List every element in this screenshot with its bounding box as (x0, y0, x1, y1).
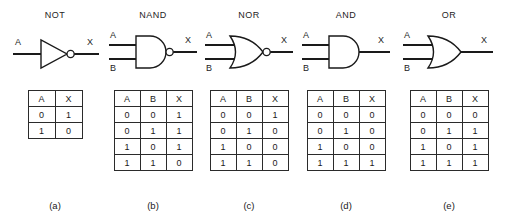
table-cell: 0 (333, 107, 359, 123)
table-header-row: A B X (210, 91, 288, 107)
table-cell: 1 (262, 107, 288, 123)
gate-title-or: OR (442, 8, 457, 22)
gate-group-nor: NOR A B X A B X (199, 0, 299, 219)
table-cell: 0 (210, 123, 236, 139)
table-header-cell: A (307, 91, 333, 107)
gate-symbol-nand: A B X (105, 26, 201, 78)
table-cell: 0 (236, 107, 262, 123)
table-cell: 0 (262, 123, 288, 139)
table-cell: 0 (55, 123, 82, 139)
gate-symbol-nor: A B X (201, 26, 297, 78)
caption-a: (a) (0, 200, 110, 211)
table-cell: 1 (462, 139, 488, 155)
table-header-cell: A (114, 91, 140, 107)
table-cell: 1 (333, 155, 359, 171)
table-cell: 0 (262, 155, 288, 171)
input-label-b: B (404, 63, 410, 73)
table-cell: 1 (462, 123, 488, 139)
table-header-cell: B (140, 91, 166, 107)
table-header-cell: B (236, 91, 262, 107)
table-cell: 0 (28, 107, 55, 123)
table-cell: 0 (307, 107, 333, 123)
gate-group-or: OR A B X A B X 0 0 (393, 0, 505, 219)
gate-symbol-not: A X (7, 26, 103, 78)
truth-table-not: A X 0 1 1 0 (28, 90, 83, 139)
table-row: 0 0 1 (210, 107, 288, 123)
gate-group-nand: NAND A B X A B X (103, 0, 203, 219)
table-header-cell: B (436, 91, 462, 107)
table-row: 1 0 (28, 123, 82, 139)
table-cell: 0 (410, 123, 436, 139)
table-cell: 1 (436, 155, 462, 171)
table-cell: 0 (307, 123, 333, 139)
table-row: 1 1 1 (410, 155, 488, 171)
caption-c: (c) (199, 200, 299, 211)
input-label-a: A (404, 30, 410, 40)
truth-table-and: A B X 0 0 0 0 1 0 1 0 0 1 1 1 (307, 90, 386, 171)
table-cell: 1 (166, 123, 192, 139)
table-cell: 1 (28, 123, 55, 139)
table-cell: 1 (166, 139, 192, 155)
table-header-cell: X (55, 91, 82, 107)
input-label-b: B (110, 63, 116, 73)
table-cell: 1 (166, 107, 192, 123)
input-label-b: B (206, 63, 212, 73)
table-row: 1 0 0 (307, 139, 385, 155)
table-cell: 1 (307, 155, 333, 171)
table-row: 1 1 1 (307, 155, 385, 171)
truth-table-nor: A B X 0 0 1 0 1 0 1 0 0 1 1 0 (210, 90, 289, 171)
output-label-x: X (185, 35, 191, 45)
table-cell: 0 (236, 139, 262, 155)
table-cell: 0 (114, 123, 140, 139)
table-row: 0 1 1 (114, 123, 192, 139)
table-cell: 1 (140, 123, 166, 139)
table-row: 1 0 1 (410, 139, 488, 155)
table-cell: 1 (462, 155, 488, 171)
input-label-b: B (303, 63, 309, 73)
caption-e: (e) (393, 200, 505, 211)
table-cell: 1 (210, 139, 236, 155)
table-header-row: A B X (114, 91, 192, 107)
gate-title-nor: NOR (238, 8, 260, 22)
table-header-cell: A (28, 91, 55, 107)
table-cell: 1 (210, 155, 236, 171)
table-cell: 0 (436, 139, 462, 155)
table-cell: 1 (436, 123, 462, 139)
table-header-cell: X (262, 91, 288, 107)
output-label-x: X (481, 35, 487, 45)
table-row: 1 1 0 (114, 155, 192, 171)
truth-table-nand: A B X 0 0 1 0 1 1 1 0 1 1 1 0 (114, 90, 193, 171)
logic-gates-figure: NOT A X A X 0 1 (0, 0, 505, 219)
table-header-cell: A (410, 91, 436, 107)
table-cell: 1 (114, 139, 140, 155)
table-header-row: A B X (410, 91, 488, 107)
gate-title-and: AND (336, 8, 357, 22)
table-cell: 0 (410, 107, 436, 123)
table-header-cell: B (333, 91, 359, 107)
table-cell: 0 (166, 155, 192, 171)
table-cell: 0 (359, 107, 385, 123)
table-cell: 1 (333, 123, 359, 139)
table-cell: 1 (410, 155, 436, 171)
table-cell: 0 (436, 107, 462, 123)
gate-title-nand: NAND (139, 8, 167, 22)
table-cell: 0 (140, 107, 166, 123)
output-label-x: X (87, 37, 93, 47)
table-cell: 1 (359, 155, 385, 171)
table-cell: 1 (236, 155, 262, 171)
table-header-row: A X (28, 91, 82, 107)
table-header-row: A B X (307, 91, 385, 107)
caption-d: (d) (296, 200, 396, 211)
table-header-cell: A (210, 91, 236, 107)
table-cell: 0 (114, 107, 140, 123)
table-cell: 1 (140, 155, 166, 171)
table-cell: 0 (333, 139, 359, 155)
table-row: 0 1 0 (210, 123, 288, 139)
table-cell: 1 (410, 139, 436, 155)
table-row: 0 1 0 (307, 123, 385, 139)
input-label-a: A (206, 30, 212, 40)
truth-table-or: A B X 0 0 0 0 1 1 1 0 1 1 1 1 (410, 90, 489, 171)
caption-b: (b) (103, 200, 203, 211)
table-cell: 0 (462, 107, 488, 123)
gate-group-and: AND A B X A B X 0 0 (296, 0, 396, 219)
